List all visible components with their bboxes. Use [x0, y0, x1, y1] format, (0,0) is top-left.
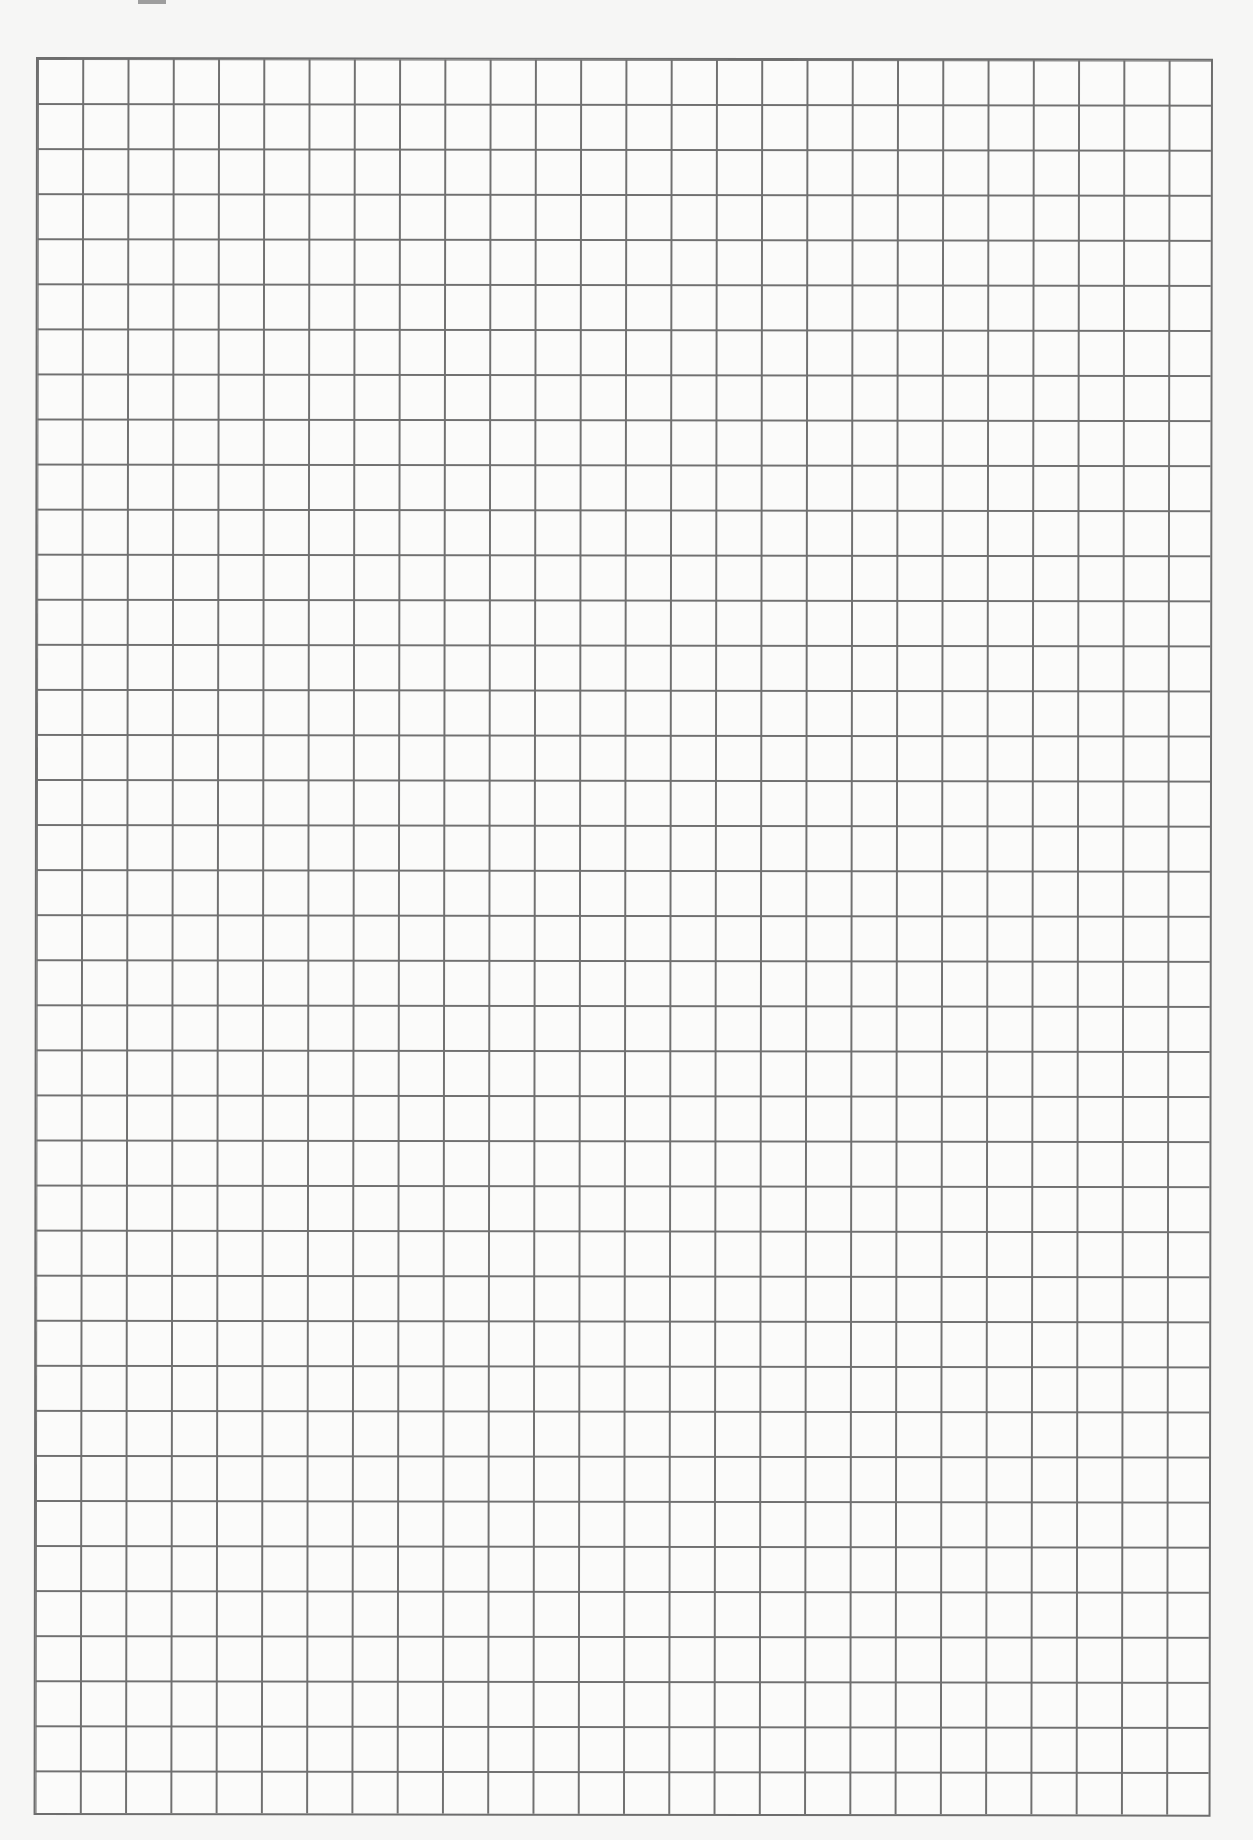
graph-paper-grid	[34, 57, 1213, 1817]
cropped-header-fragment	[138, 0, 166, 4]
